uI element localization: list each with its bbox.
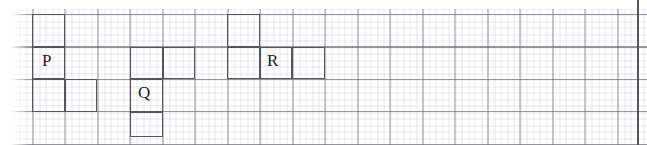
shape-r: R [0,0,647,145]
figure-canvas: PQR [0,0,647,145]
shape-r-label: R [267,52,278,69]
r-cell-bottom-right [292,47,325,80]
r-cell-top-left [227,14,260,47]
r-cell-bottom-left [227,47,260,80]
